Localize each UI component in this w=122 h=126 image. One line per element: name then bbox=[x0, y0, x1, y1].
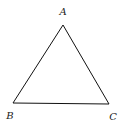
triangle-diagram: A B C bbox=[0, 0, 122, 126]
triangle-abc bbox=[13, 25, 109, 104]
vertex-label-b: B bbox=[5, 110, 13, 121]
vertex-label-a: A bbox=[58, 6, 66, 17]
vertex-label-c: C bbox=[109, 111, 117, 122]
